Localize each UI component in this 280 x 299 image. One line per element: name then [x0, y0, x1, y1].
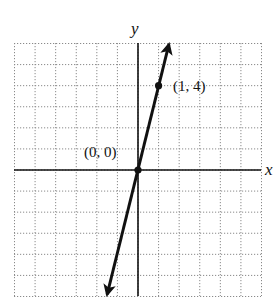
coordinate-plane: y x (0, 0) (1, 4)	[0, 0, 280, 299]
x-axis-label: x	[264, 160, 273, 179]
origin-point-label: (0, 0)	[84, 144, 117, 161]
point-1-4-label: (1, 4)	[173, 78, 206, 95]
y-axis-label: y	[129, 19, 139, 38]
point-origin	[134, 166, 141, 173]
point-1-4	[155, 82, 162, 89]
